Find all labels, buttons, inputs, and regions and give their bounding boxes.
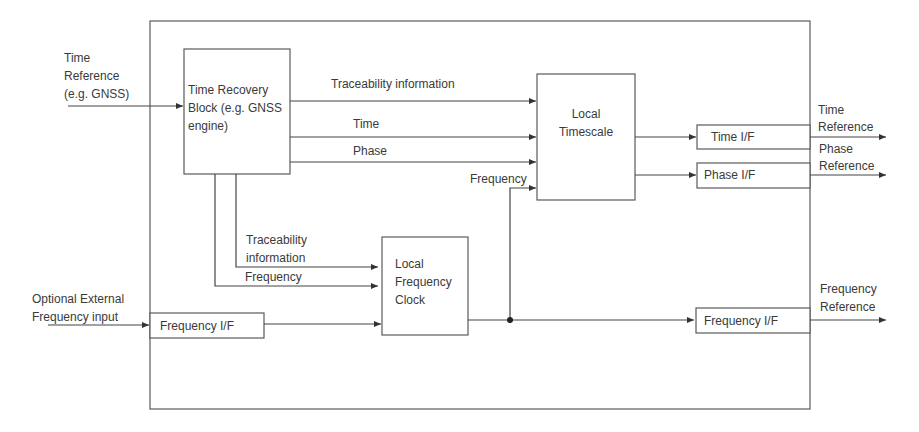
svg-text:Block (e.g. GNSS: Block (e.g. GNSS [188,101,282,115]
block-frequency-if-out: Frequency I/F [696,308,810,333]
label-time: Time [353,117,380,131]
svg-text:Reference: Reference [819,159,875,173]
svg-text:Frequency I/F: Frequency I/F [704,314,778,328]
block-local-timescale: Local Timescale [537,74,635,200]
svg-text:Time: Time [64,51,91,65]
timing-architecture-diagram: Time Reference (e.g. GNSS) Time Recovery… [0,0,919,432]
block-local-frequency-clock: Local Frequency Clock [382,237,468,335]
output-phase-reference: Phase Reference [810,142,886,175]
output-frequency-reference: Frequency Reference [810,282,886,320]
block-phase-if: Phase I/F [697,163,810,188]
svg-text:Reference: Reference [818,120,874,134]
block-frequency-if-in: Frequency I/F [150,313,264,338]
svg-text:Local: Local [395,257,424,271]
svg-text:Time: Time [818,103,845,117]
svg-text:Frequency: Frequency [820,282,877,296]
svg-text:Reference: Reference [64,69,120,83]
input-optional-external-frequency: Optional External Frequency input [32,292,149,325]
svg-text:Time I/F: Time I/F [711,130,755,144]
svg-text:Optional External: Optional External [32,292,124,306]
svg-text:Local: Local [572,107,601,121]
label-traceability-lower-1: Traceability [246,233,307,247]
label-frequency-to-timescale: Frequency [470,172,527,186]
svg-text:Phase I/F: Phase I/F [704,168,755,182]
svg-text:Frequency input: Frequency input [32,310,119,324]
block-time-recovery: Time Recovery Block (e.g. GNSS engine) [184,49,290,174]
svg-text:Time Recovery: Time Recovery [188,83,268,97]
label-traceability-lower-2: information [246,251,305,265]
svg-text:Reference: Reference [820,300,876,314]
output-time-reference: Time Reference [810,103,886,137]
svg-text:engine): engine) [188,119,228,133]
svg-text:Clock: Clock [395,293,426,307]
svg-text:(e.g. GNSS): (e.g. GNSS) [64,87,129,101]
svg-text:Timescale: Timescale [559,125,614,139]
svg-text:Frequency I/F: Frequency I/F [160,319,234,333]
label-frequency-lower: Frequency [245,270,302,284]
block-time-if: Time I/F [697,125,810,149]
label-phase: Phase [353,144,387,158]
svg-text:Phase: Phase [819,142,853,156]
svg-text:Frequency: Frequency [395,275,452,289]
junction-dot [507,317,513,323]
label-traceability-top: Traceability information [331,77,455,91]
